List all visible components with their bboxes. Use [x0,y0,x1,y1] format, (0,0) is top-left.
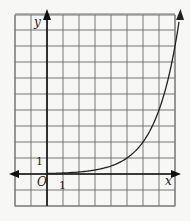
x-tick-label: 1 [59,179,66,192]
origin-label: O [37,175,47,189]
curve-arrow-icon [176,9,184,20]
x-axis-right-arrow-icon [171,170,181,178]
y-tick-label: 1 [36,155,43,168]
y-axis-label: y [33,15,41,29]
graph: y x O 1 1 [0,0,190,221]
x-axis-left-arrow-icon [9,170,19,178]
x-axis-label: x [165,174,172,188]
